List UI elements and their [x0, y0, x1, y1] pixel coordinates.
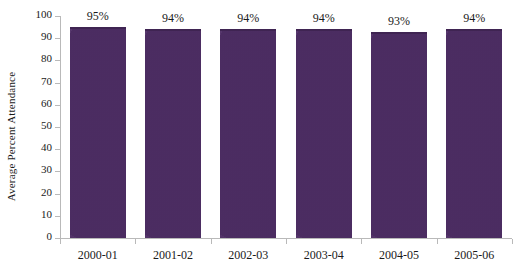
y-axis-tick: 50 [60, 127, 61, 128]
y-axis-tick: 40 [60, 149, 61, 150]
bar[interactable] [371, 32, 427, 238]
bar[interactable] [145, 29, 201, 238]
y-axis-tick-mark [55, 16, 60, 17]
x-axis-tick-mark [286, 239, 287, 244]
y-axis-tick: 80 [60, 60, 61, 61]
x-axis-tick-mark [135, 239, 136, 244]
x-axis-tick-mark [60, 239, 61, 244]
x-axis-category-label: 2002-03 [210, 248, 286, 263]
y-axis-tick-mark [55, 171, 60, 172]
x-axis-tick-mark [437, 239, 438, 244]
y-axis-tick: 60 [60, 105, 61, 106]
x-axis-tick-mark [211, 239, 212, 244]
y-axis-tick-label: 70 [26, 75, 52, 87]
y-axis-tick: 30 [60, 171, 61, 172]
x-axis-category-label: 2000-01 [60, 248, 136, 263]
y-axis-tick-label: 10 [26, 208, 52, 220]
y-axis-tick: 90 [60, 38, 61, 39]
y-axis-tick-label: 100 [26, 8, 52, 20]
bar[interactable] [296, 29, 352, 238]
y-axis-tick: 20 [60, 194, 61, 195]
y-axis-tick-label: 20 [26, 186, 52, 198]
y-axis-tick-mark [55, 83, 60, 84]
x-axis-category-label: 2004-05 [361, 248, 437, 263]
bar-data-label: 94% [218, 11, 278, 26]
y-axis-tick-mark [55, 127, 60, 128]
bar-data-label: 94% [294, 11, 354, 26]
bar-texture [220, 31, 276, 238]
bar-texture [371, 34, 427, 238]
x-axis-tick-mark [512, 239, 513, 244]
bar[interactable] [446, 29, 502, 238]
bar-texture [145, 31, 201, 238]
y-axis-tick: 70 [60, 83, 61, 84]
y-axis-tick-mark [55, 105, 60, 106]
y-axis-tick-mark [55, 149, 60, 150]
bar-data-label: 93% [369, 14, 429, 29]
y-axis-tick-mark [55, 216, 60, 217]
y-axis-tick-label: 30 [26, 163, 52, 175]
x-axis-category-label: 2001-02 [135, 248, 211, 263]
y-axis-tick-label: 60 [26, 97, 52, 109]
y-axis-title: Average Percent Attendance [0, 0, 22, 273]
x-axis-category-label: 2005-06 [436, 248, 512, 263]
bar-data-label: 95% [68, 9, 128, 24]
y-axis-tick-label: 50 [26, 119, 52, 131]
y-axis-tick-mark [55, 60, 60, 61]
bar-data-label: 94% [143, 11, 203, 26]
bar[interactable] [220, 29, 276, 238]
x-axis-tick-mark [361, 239, 362, 244]
y-axis-tick-label: 80 [26, 52, 52, 64]
y-axis-tick-label: 90 [26, 30, 52, 42]
plot-area: 0102030405060708090100 95%94%94%94%93%94… [60, 16, 512, 238]
bar-texture [70, 29, 126, 238]
y-axis-tick: 10 [60, 216, 61, 217]
bar-texture [446, 31, 502, 238]
y-axis-tick: 100 [60, 16, 61, 17]
bar[interactable] [70, 27, 126, 238]
bar-data-label: 94% [444, 11, 504, 26]
y-axis-tick-mark [55, 38, 60, 39]
y-axis-tick-mark [55, 194, 60, 195]
x-axis-category-label: 2003-04 [286, 248, 362, 263]
y-axis-tick-label: 40 [26, 141, 52, 153]
bar-chart: Average Percent Attendance 0102030405060… [0, 0, 523, 273]
bar-texture [296, 31, 352, 238]
y-axis-tick-label: 0 [26, 230, 52, 242]
